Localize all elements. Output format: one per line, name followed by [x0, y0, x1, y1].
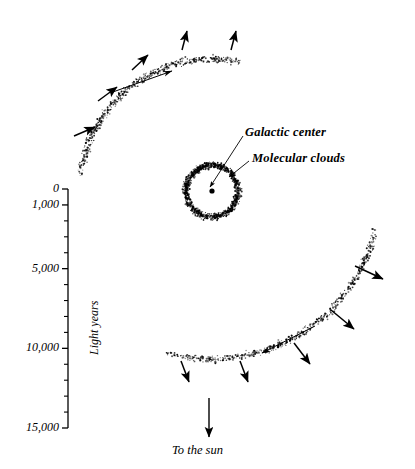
axis-tick-10000: 10,000	[26, 341, 59, 353]
scale-axis	[62, 189, 68, 428]
callout-leaders	[210, 136, 249, 187]
to-the-sun-label: To the sun	[172, 444, 223, 457]
stippled-features	[78, 54, 377, 364]
figure-canvas: Galactic center Molecular clouds To the …	[0, 0, 415, 469]
axis-tick-5000: 5,000	[32, 262, 59, 274]
diagram-artwork	[0, 0, 415, 469]
molecular-clouds-label: Molecular clouds	[252, 152, 345, 165]
axis-title-light-years: Light years	[88, 301, 100, 355]
axis-tick-0: 0	[53, 182, 59, 194]
axis-tick-1000: 1,000	[32, 198, 59, 210]
axis-tick-15000: 15,000	[26, 421, 59, 433]
galactic-center-label: Galactic center	[245, 126, 326, 139]
motion-arrows	[74, 31, 383, 382]
galactic-center-dot	[209, 188, 214, 193]
